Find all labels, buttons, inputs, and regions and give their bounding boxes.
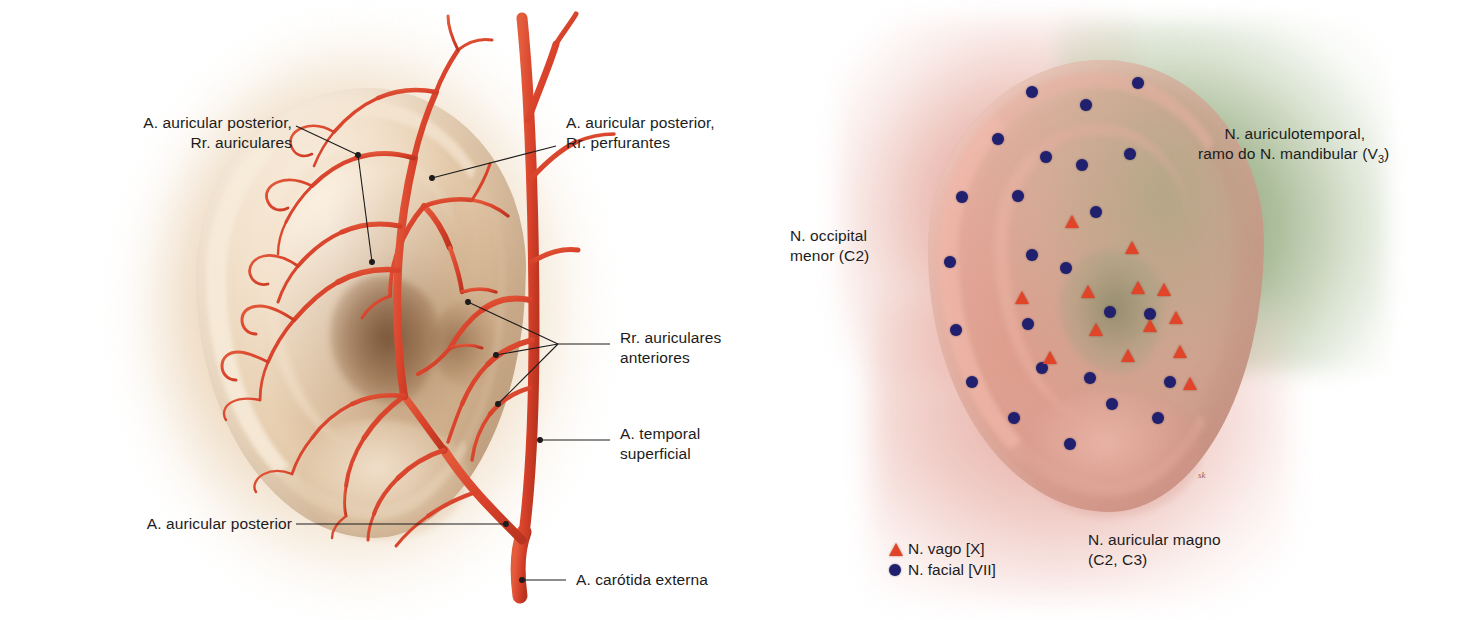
vagus-nerve-marker <box>1121 349 1135 362</box>
facial-nerve-marker <box>1090 206 1102 218</box>
facial-nerve-marker <box>1084 372 1096 384</box>
legend-label-facial: N. facial [VII] <box>908 561 996 579</box>
label-mandibular-paren-close: ) <box>1384 145 1389 162</box>
vagus-nerve-marker <box>1125 241 1139 254</box>
vagus-nerve-marker <box>1065 215 1079 228</box>
figure-sensory-innervation: sk N. auriculotemporal, ramo do N. mandi… <box>760 0 1484 620</box>
vagus-nerve-marker <box>1173 345 1187 358</box>
facial-nerve-marker <box>1040 151 1052 163</box>
anatomy-plate: A. auricular posterior, Rr. auriculares <box>0 0 1484 620</box>
facial-nerve-marker <box>1164 376 1176 388</box>
facial-nerve-marker <box>1012 190 1024 202</box>
label-n-auricular-magno: N. auricular magno (C2, C3) <box>1088 530 1308 570</box>
label-a-temporal-superficial: A. temporal superficial <box>620 424 760 464</box>
facial-nerve-marker <box>1022 318 1034 330</box>
label-n-auriculotemporal-text: N. auriculotemporal, ramo do N. mandibul… <box>1198 125 1378 162</box>
figure-arterial-supply: A. auricular posterior, Rr. auriculares <box>0 0 760 620</box>
label-rr-auriculares-anteriores: Rr. auriculares anteriores <box>620 328 760 368</box>
vagus-nerve-marker <box>1015 291 1029 304</box>
vagus-nerve-marker <box>1131 281 1145 294</box>
legend-label-vagus: N. vago [X] <box>908 540 985 558</box>
facial-nerve-marker <box>1026 86 1038 98</box>
label-a-auricular-posterior-rr-perfurantes: A. auricular posterior, Rr. perfurantes <box>566 113 766 153</box>
facial-nerve-marker <box>1124 148 1136 160</box>
vagus-nerve-marker <box>1043 351 1057 364</box>
vagus-nerve-marker <box>1169 311 1183 324</box>
facial-nerve-marker <box>956 191 968 203</box>
legend-item-vagus: N. vago [X] <box>886 538 996 559</box>
facial-nerve-marker <box>1064 438 1076 450</box>
label-n-occipital-menor: N. occipital menor (C2) <box>790 226 930 266</box>
facial-nerve-marker <box>1076 159 1088 171</box>
facial-nerve-marker <box>944 256 956 268</box>
label-a-auricular-posterior-rr-auriculares: A. auricular posterior, Rr. auriculares <box>62 113 292 153</box>
vagus-nerve-marker <box>1081 285 1095 298</box>
facial-nerve-marker <box>1080 99 1092 111</box>
facial-nerve-marker <box>1152 412 1164 424</box>
label-a-auricular-posterior: A. auricular posterior <box>60 514 292 534</box>
label-n-auriculotemporal: N. auriculotemporal, ramo do N. mandibul… <box>1198 104 1478 189</box>
facial-nerve-marker <box>950 324 962 336</box>
facial-nerve-marker <box>992 133 1004 145</box>
label-a-carotida-externa: A. carótida externa <box>576 570 756 590</box>
vagus-nerve-marker <box>1089 323 1103 336</box>
legend-item-facial: N. facial [VII] <box>886 559 996 580</box>
facial-nerve-marker <box>1132 77 1144 89</box>
facial-nerve-marker <box>966 376 978 388</box>
facial-circle-icon <box>886 562 908 578</box>
facial-nerve-marker <box>1026 249 1038 261</box>
vagus-nerve-marker <box>1183 377 1197 390</box>
facial-nerve-marker <box>1008 412 1020 424</box>
vagus-nerve-marker <box>1143 319 1157 332</box>
vagus-triangle-icon <box>886 541 908 557</box>
facial-nerve-marker <box>1104 306 1116 318</box>
artist-signature: sk <box>1198 470 1206 480</box>
facial-nerve-marker <box>1106 398 1118 410</box>
facial-nerve-marker <box>1060 262 1072 274</box>
nerve-legend: N. vago [X] N. facial [VII] <box>886 538 996 580</box>
vagus-nerve-marker <box>1157 283 1171 296</box>
